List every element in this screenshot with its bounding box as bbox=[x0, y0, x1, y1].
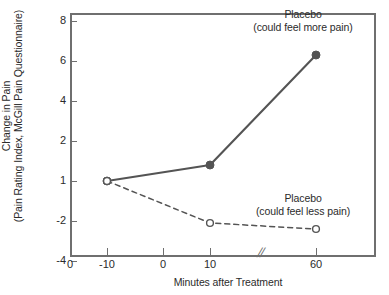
annotation-less-pain-line-2: (could feel less pain) bbox=[228, 205, 378, 218]
annotation-less-pain: Placebo (could feel less pain) bbox=[228, 192, 378, 217]
x-axis-title: Minutes after Treatment bbox=[78, 276, 378, 288]
data-point-open bbox=[104, 178, 111, 185]
annotation-more-pain: Placebo (could feel more pain) bbox=[228, 8, 378, 33]
data-point-open bbox=[313, 226, 320, 233]
pain-change-line-chart: Change in Pain (Pain Rating Index, McGil… bbox=[0, 0, 389, 295]
series-layer bbox=[0, 0, 389, 295]
data-point-filled bbox=[206, 161, 214, 169]
annotation-less-pain-line-1: Placebo bbox=[228, 192, 378, 205]
data-point-open bbox=[207, 220, 214, 227]
annotation-more-pain-line-2: (could feel more pain) bbox=[228, 21, 378, 34]
data-point-filled bbox=[312, 51, 320, 59]
annotation-more-pain-line-1: Placebo bbox=[228, 8, 378, 21]
series-more-pain-markers bbox=[103, 51, 320, 185]
